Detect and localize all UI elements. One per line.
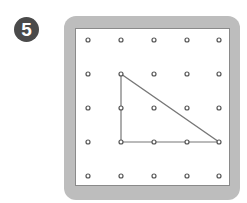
peg	[152, 106, 156, 110]
peg	[152, 140, 156, 144]
peg	[217, 140, 221, 144]
peg	[119, 72, 123, 76]
peg	[185, 140, 189, 144]
peg	[217, 38, 221, 42]
peg	[119, 174, 123, 178]
peg	[86, 72, 90, 76]
peg	[119, 38, 123, 42]
peg	[152, 38, 156, 42]
triangle-band	[121, 74, 219, 142]
peg	[152, 174, 156, 178]
peg-grid	[86, 38, 221, 178]
peg	[152, 72, 156, 76]
peg	[217, 106, 221, 110]
geoboard-pegs-and-shape	[0, 0, 247, 203]
peg	[185, 72, 189, 76]
peg	[217, 174, 221, 178]
triangle	[121, 74, 219, 142]
peg	[119, 106, 123, 110]
peg	[119, 140, 123, 144]
peg	[86, 106, 90, 110]
peg	[185, 106, 189, 110]
peg	[185, 38, 189, 42]
peg	[86, 140, 90, 144]
peg	[217, 72, 221, 76]
peg	[86, 38, 90, 42]
peg	[86, 174, 90, 178]
peg	[185, 174, 189, 178]
